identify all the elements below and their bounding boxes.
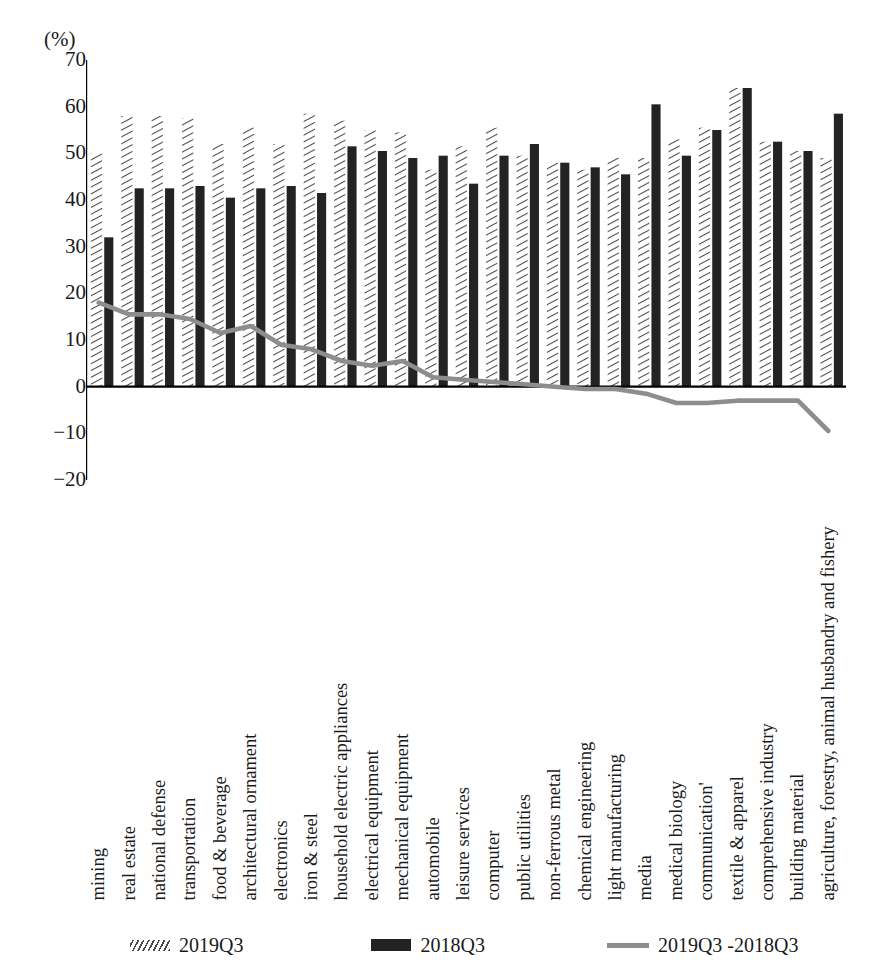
x-axis-category-label: automobile <box>423 817 442 900</box>
bar-2019q3 <box>486 128 497 387</box>
bar-2018q3 <box>408 158 417 387</box>
bar-2018q3 <box>469 184 478 387</box>
bar-2018q3 <box>256 188 265 386</box>
bar-2018q3 <box>530 144 539 387</box>
legend-item[interactable]: 2019Q3 <box>130 934 243 957</box>
bar-2018q3 <box>591 167 600 386</box>
y-axis-tick-label: 70 <box>40 49 86 70</box>
x-axis-category-label: comprehensive industry <box>758 723 777 900</box>
solid-bar-swatch <box>371 939 411 951</box>
x-axis-category-label: mining <box>89 848 108 900</box>
legend-item[interactable]: 2019Q3 -2018Q3 <box>607 934 799 957</box>
bar-2018q3 <box>621 174 630 386</box>
bar-2018q3 <box>347 146 356 386</box>
x-axis-category-label: chemical engineering <box>575 741 594 900</box>
bar-2019q3 <box>820 158 831 387</box>
bar-2019q3 <box>456 146 467 386</box>
bar-2018q3 <box>834 114 843 387</box>
bar-2019q3 <box>364 130 375 387</box>
y-axis-tick-label: 30 <box>40 236 86 257</box>
bar-2019q3 <box>334 121 345 387</box>
x-axis-category-label: public utilities <box>514 794 533 900</box>
bar-2019q3 <box>212 144 223 387</box>
bar-2018q3 <box>226 198 235 387</box>
y-axis-tick-label: 20 <box>40 282 86 303</box>
bar-2018q3 <box>287 186 296 387</box>
bar-2019q3 <box>577 170 588 387</box>
bar-2019q3 <box>760 142 771 387</box>
chart-svg <box>86 60 846 480</box>
x-axis-category-label: communication' <box>697 782 716 900</box>
bar-2019q3 <box>425 170 436 387</box>
bar-2019q3 <box>668 139 679 386</box>
x-axis-category-label: electronics <box>271 820 290 900</box>
bar-2019q3 <box>152 116 163 387</box>
bar-2019q3 <box>121 116 132 387</box>
bar-2019q3 <box>304 114 315 387</box>
chart-legend: 2019Q32018Q32019Q3 -2018Q3 <box>0 925 871 965</box>
bar-2019q3 <box>638 158 649 387</box>
legend-label: 2018Q3 <box>420 934 484 957</box>
bar-2018q3 <box>439 156 448 387</box>
x-axis-category-label: architectural ornament <box>241 733 260 900</box>
bar-2018q3 <box>165 188 174 386</box>
bar-2019q3 <box>91 153 102 386</box>
x-axis-category-label: national defense <box>150 779 169 900</box>
bar-2018q3 <box>712 130 721 387</box>
y-axis-tick-label: −10 <box>40 422 86 443</box>
bar-2019q3 <box>182 118 193 386</box>
x-axis-category-label: non-ferrous metal <box>545 768 564 900</box>
y-axis-tick-label: −20 <box>40 469 86 490</box>
legend-label: 2019Q3 <box>179 934 243 957</box>
bar-2019q3 <box>547 163 558 387</box>
plot-area <box>86 60 846 480</box>
x-axis-category-label: media <box>636 855 655 900</box>
bar-2018q3 <box>682 156 691 387</box>
bar-2019q3 <box>516 156 527 387</box>
x-axis-category-label: building material <box>788 773 807 900</box>
bar-2018q3 <box>378 151 387 387</box>
bar-2018q3 <box>317 193 326 387</box>
bar-2019q3 <box>243 128 254 387</box>
bar-2018q3 <box>743 88 752 387</box>
x-axis-category-label: electrical equipment <box>362 750 381 901</box>
y-axis-tick-label: 0 <box>40 376 86 397</box>
y-axis-tick-label: 50 <box>40 142 86 163</box>
x-axis-category-labels: miningreal estatenational defensetranspo… <box>86 470 856 900</box>
line-swatch <box>607 943 649 948</box>
x-axis-category-label: light manufacturing <box>606 754 625 900</box>
bar-2018q3 <box>803 151 812 387</box>
chart-container: (%) 706050403020100−10−20 miningreal est… <box>0 0 871 980</box>
x-axis-category-label: mechanical equipment <box>393 733 412 900</box>
bar-2019q3 <box>273 144 284 387</box>
bar-2018q3 <box>499 156 508 387</box>
legend-label: 2019Q3 -2018Q3 <box>658 934 799 957</box>
x-axis-category-label: transportation <box>180 797 199 900</box>
y-axis-tick-labels: 706050403020100−10−20 <box>34 0 86 520</box>
hatched-bar-swatch <box>130 940 170 951</box>
x-axis-category-label: iron & steel <box>302 813 321 900</box>
bar-2018q3 <box>195 186 204 387</box>
x-axis-category-label: leisure services <box>454 786 473 900</box>
legend-item[interactable]: 2018Q3 <box>371 934 484 957</box>
x-axis-category-label: real estate <box>119 826 138 900</box>
bar-2018q3 <box>773 142 782 387</box>
bar-2018q3 <box>560 163 569 387</box>
x-axis-category-label: agriculture, forestry, animal husbandry … <box>818 526 837 900</box>
bar-2018q3 <box>651 104 660 386</box>
bar-2019q3 <box>395 132 406 386</box>
bar-2019q3 <box>699 128 710 387</box>
bar-2019q3 <box>608 158 619 387</box>
y-axis-tick-label: 10 <box>40 329 86 350</box>
y-axis-tick-label: 40 <box>40 189 86 210</box>
bar-2018q3 <box>104 237 113 386</box>
x-axis-category-label: medical biology <box>666 780 685 900</box>
x-axis-category-label: household electric appliances <box>332 682 351 900</box>
x-axis-category-label: food & beverage <box>210 776 229 900</box>
bar-2019q3 <box>729 88 740 387</box>
bar-2018q3 <box>135 188 144 386</box>
x-axis-category-label: computer <box>484 830 503 900</box>
x-axis-category-label: textile & apparel <box>727 776 746 900</box>
bar-2019q3 <box>790 151 801 387</box>
y-axis-tick-label: 60 <box>40 96 86 117</box>
